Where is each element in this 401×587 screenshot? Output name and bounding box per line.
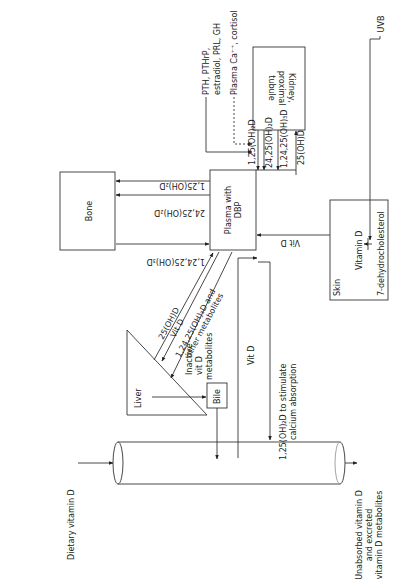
kidney-node: Kidney, proximal tubule — [253, 47, 305, 130]
skin-label: Skin — [333, 279, 342, 296]
calcium-label-2: calcium absorption — [289, 364, 298, 440]
inactive-label-2: vit D — [195, 356, 204, 375]
kp-label-1: 1,25(OH)₂D — [248, 119, 257, 165]
plasma-label-1: Plasma with — [224, 186, 233, 234]
pb-label-1: 1,25(OH)₂D — [159, 181, 205, 190]
plasma-bone-arrows: 1,25(OH)₂D 24,25(OH)₂D 1,24,25(OH)₃D — [116, 181, 210, 266]
regulator-text-2: estradiol, PRL, GH — [213, 23, 222, 95]
excreted-label-2: and excreted — [365, 509, 374, 562]
regulator-text-1: PTH, PTHrP, — [202, 48, 211, 95]
pb-label-3: 1,24,25(OH)₃D — [147, 257, 205, 266]
intestine-plasma: Vit D 1,25(OH)₂D to stimulate calcium ab… — [238, 258, 298, 460]
bone-node: Bone — [60, 172, 115, 250]
skin-plasma-arrow: Vit D — [257, 235, 330, 247]
intestine-right-end — [340, 442, 345, 484]
dietary-label: Dietary vitamin D — [67, 489, 76, 560]
kidney-label-1: Kidney, — [287, 73, 296, 103]
regulator-arrow-1 — [206, 97, 252, 152]
plasma-node: Plasma with DBP — [210, 170, 256, 250]
liver-label: Liver — [134, 388, 143, 408]
regulator-text-3: Plasma Ca⁺⁺, cortisol — [230, 10, 239, 95]
intestine-vitd-label: Vit D — [247, 346, 256, 365]
skin-vitd-arrow-label: Vit D — [281, 238, 300, 247]
excreted-label-1: Unabsorbed vitamin D — [355, 490, 364, 580]
kp-label-2: 24,25(OH)₂D — [265, 117, 274, 168]
uvb-label: UVB — [377, 16, 386, 33]
kp-label-4: 25(OH)D — [297, 130, 306, 165]
plasma-label-2: DBP — [234, 202, 243, 219]
vitamin-d-diagram: Kidney, proximal tubule PTH, PTHrP, estr… — [0, 0, 401, 587]
intestine-left-end — [113, 442, 123, 484]
excreted-label-3: vitamin D metabolites — [375, 491, 384, 580]
skin-node: Skin Vitamin D 7-dehydrocholesterol — [330, 200, 388, 300]
pb-label-2: 24,25(OH)₂D — [154, 208, 205, 217]
kp-label-3: 1,24,25(OH)₃D — [280, 110, 289, 168]
regulators: PTH, PTHrP, estradiol, PRL, GH Plasma Ca… — [202, 10, 252, 152]
skin-vitd-label: Vitamin D — [355, 231, 364, 270]
calcium-label-1: 1,25(OH)₂D to stimulate — [279, 363, 288, 460]
bone-label: Bone — [85, 201, 94, 221]
inactive-label-1: Inactive — [185, 343, 194, 375]
excreted-output: Unabsorbed vitamin D and excreted vitami… — [345, 463, 384, 580]
bile-label: Bile — [213, 389, 222, 404]
intestine — [113, 442, 345, 484]
plasma-box — [210, 170, 256, 250]
kidney-label-3: tubule — [267, 75, 276, 101]
kidney-label-2: proximal — [277, 71, 286, 106]
dietary-input: Dietary vitamin D — [67, 463, 113, 560]
inactive-label-3: metabolites — [205, 333, 214, 380]
skin-precursor-label: 7-dehydrocholesterol — [377, 211, 386, 296]
